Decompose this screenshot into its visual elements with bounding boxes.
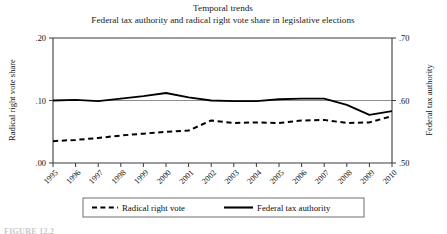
x-axis-tick-label: 1996 — [65, 168, 83, 186]
y-axis-right: .50.60.70 — [392, 34, 409, 168]
plot-area — [53, 38, 392, 163]
x-axis-tick-label: 2002 — [200, 168, 218, 186]
figure-container: Temporal trends Federal tax authority an… — [0, 0, 447, 234]
y-axis-right-tick-label: .60 — [399, 97, 409, 106]
x-axis-tick-label: 2001 — [178, 168, 196, 186]
chart-legend: Radical right vote Federal tax authority — [83, 198, 364, 217]
x-axis-tick-label: 2006 — [291, 168, 309, 186]
y-axis-left-tick-label: .20 — [36, 34, 46, 43]
x-axis-tick-label: 2000 — [155, 168, 173, 186]
x-axis-tick-label: 2009 — [358, 168, 376, 186]
x-axis-tick-label: 1999 — [132, 168, 150, 186]
chart-subtitle: Federal tax authority and radical right … — [91, 15, 355, 25]
figure-caption: FIGURE 12.2 — [4, 227, 54, 234]
y-axis-right-title: Federal tax authority — [424, 64, 434, 136]
chart-title: Temporal trends — [193, 3, 253, 13]
x-axis-tick-label: 2003 — [223, 168, 241, 186]
x-axis-tick-label: 2008 — [336, 168, 354, 186]
y-axis-left-tick-label: .10 — [36, 97, 46, 106]
x-axis-tick-label: 2010 — [381, 168, 399, 186]
x-axis-tick-label: 2005 — [268, 168, 286, 186]
y-axis-right-tick-label: .70 — [399, 34, 409, 43]
legend-label-radical-right-vote: Radical right vote — [122, 203, 185, 213]
y-axis-right-tick-label: .50 — [399, 159, 409, 168]
x-axis-tick-label: 2004 — [245, 168, 263, 186]
temporal-trends-chart: Temporal trends Federal tax authority an… — [0, 0, 447, 234]
y-axis-left: .00.10.20 — [36, 34, 53, 168]
chart-titles: Temporal trends Federal tax authority an… — [91, 3, 355, 25]
y-axis-left-tick-label: .00 — [36, 159, 46, 168]
y-axis-left-title: Radical right vote share — [7, 59, 17, 141]
x-axis-tick-label: 1995 — [42, 168, 60, 186]
legend-label-federal-tax-authority: Federal tax authority — [257, 203, 331, 213]
x-axis-tick-label: 2007 — [313, 168, 331, 186]
x-axis: 1995199619971998199920002001200220032004… — [42, 163, 399, 186]
x-axis-tick-label: 1997 — [87, 168, 105, 186]
x-axis-tick-label: 1998 — [110, 168, 128, 186]
